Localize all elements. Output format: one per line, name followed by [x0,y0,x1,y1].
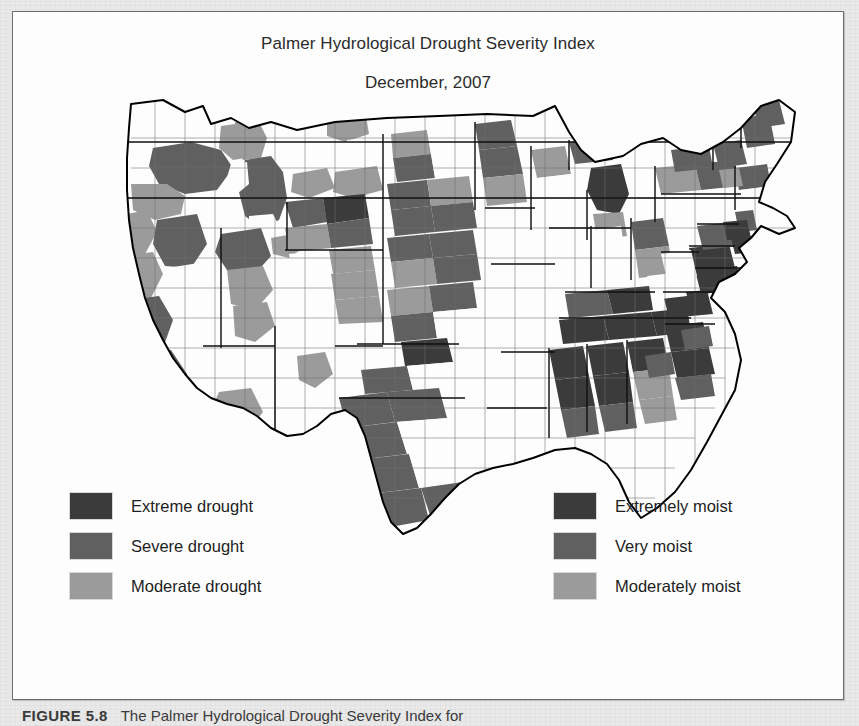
legend-row-very-moist[interactable]: Very moist [553,526,741,566]
legend-label-extremely-moist: Extremely moist [615,497,732,516]
legend-row-extremely-moist[interactable]: Extremely moist [553,486,741,526]
legend-swatch-moderate-drought [69,572,113,600]
legend-swatch-extreme-drought [69,492,113,520]
map-subtitle: December, 2007 [13,73,843,93]
us-choropleth-map [35,98,823,538]
legend-label-moderate-drought: Moderate drought [131,577,261,596]
legend-label-severe-drought: Severe drought [131,537,244,556]
figure-caption-number: FIGURE 5.8 [22,707,108,724]
legend-row-moderate-drought[interactable]: Moderate drought [69,566,261,606]
map-legend: Extreme drought Severe drought Moderate … [13,486,843,616]
legend-label-extreme-drought: Extreme drought [131,497,253,516]
legend-swatch-moderately-moist [553,572,597,600]
legend-row-extreme-drought[interactable]: Extreme drought [69,486,261,526]
legend-swatch-severe-drought [69,532,113,560]
legend-swatch-very-moist [553,532,597,560]
figure-caption: FIGURE 5.8The Palmer Hydrological Drough… [22,707,842,724]
legend-column-drought: Extreme drought Severe drought Moderate … [69,486,261,606]
map-svg [35,98,823,538]
legend-row-severe-drought[interactable]: Severe drought [69,526,261,566]
figure-title-block: Palmer Hydrological Drought Severity Ind… [13,34,843,93]
figure-caption-text: The Palmer Hydrological Drought Severity… [121,707,464,724]
map-title: Palmer Hydrological Drought Severity Ind… [13,34,843,54]
legend-column-moist: Extremely moist Very moist Moderately mo… [553,486,741,606]
legend-row-moderately-moist[interactable]: Moderately moist [553,566,741,606]
legend-label-moderately-moist: Moderately moist [615,577,741,596]
legend-swatch-extremely-moist [553,492,597,520]
figure-frame: Palmer Hydrological Drought Severity Ind… [12,11,844,700]
legend-label-very-moist: Very moist [615,537,692,556]
